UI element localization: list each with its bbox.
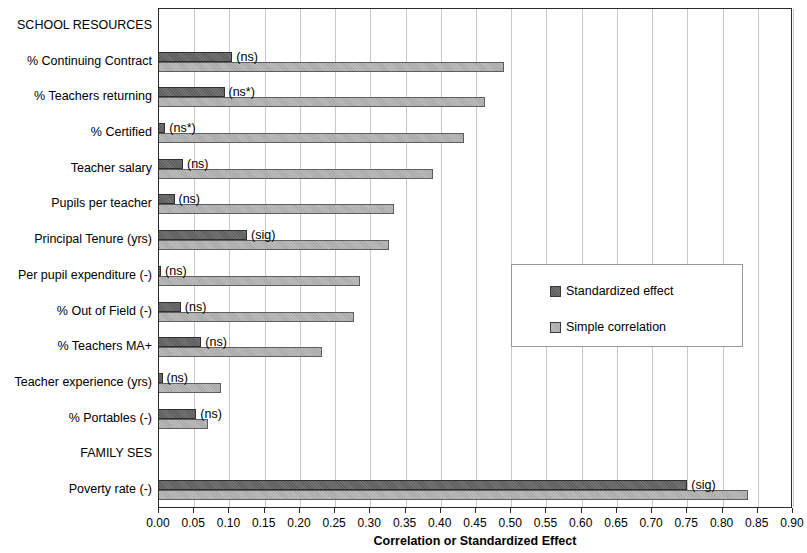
x-axis-tick [405,508,406,513]
bar-standardized-effect [159,52,232,62]
bar-simple-correlation [159,276,360,286]
gridline [300,9,301,507]
legend-label-standardized-effect: Standardized effect [566,284,673,298]
x-axis-tick [545,508,546,513]
bar-standardized-effect [159,480,687,490]
significance-note: (ns) [187,158,209,171]
bar-standardized-effect [159,302,181,312]
bar-simple-correlation [159,490,748,500]
gridline [723,9,724,507]
bar-simple-correlation [159,97,485,107]
bar-standardized-effect [159,123,165,133]
significance-note: (ns) [200,408,222,421]
gridline [652,9,653,507]
x-axis-title: Correlation or Standardized Effect [158,534,792,548]
bar-simple-correlation [159,62,504,72]
bar-standardized-effect [159,230,247,240]
x-axis-tick [264,508,265,513]
y-axis-category-label: Principal Tenure (yrs) [0,232,152,246]
gridline [476,9,477,507]
y-axis-category-label: % Certified [0,125,152,139]
significance-note: (ns) [185,301,207,314]
gridline [194,9,195,507]
y-axis-category-label: Pupils per teacher [0,196,152,210]
gridline [793,9,794,507]
plot-area: (ns)(ns*)(ns*)(ns)(ns)(sig)(ns)(ns)(ns)(… [158,8,792,508]
y-axis-category-label: % Portables (-) [0,411,152,425]
significance-note: (ns*) [229,86,255,99]
y-axis-category-label: % Continuing Contract [0,54,152,68]
bar-standardized-effect [159,266,161,276]
x-axis-tick [651,508,652,513]
significance-note: (ns*) [169,122,195,135]
y-axis-category-label: Teacher experience (yrs) [0,375,152,389]
gridline [335,9,336,507]
y-axis-category-label: Per pupil expenditure (-) [0,268,152,282]
gridline [229,9,230,507]
x-axis-tick [792,508,793,513]
gridline [265,9,266,507]
x-axis-tick [616,508,617,513]
x-axis-tick [158,508,159,513]
y-axis-category-label: Poverty rate (-) [0,482,152,496]
x-axis-tick [757,508,758,513]
bar-standardized-effect [159,87,225,97]
x-axis-tick [440,508,441,513]
x-axis-tick [299,508,300,513]
significance-note: (ns) [205,336,227,349]
significance-note: (sig) [691,479,715,492]
y-axis-category-label: % Out of Field (-) [0,304,152,318]
bar-standardized-effect [159,409,196,419]
legend-item-standardized-effect: Standardized effect [550,284,673,298]
legend-swatch-standardized-effect [550,286,561,297]
legend-label-simple-correlation: Simple correlation [566,320,666,334]
gridline [511,9,512,507]
legend-item-simple-correlation: Simple correlation [550,320,666,334]
bar-standardized-effect [159,194,175,204]
legend-swatch-simple-correlation [550,322,561,333]
x-axis-tick [510,508,511,513]
bar-standardized-effect [159,373,163,383]
significance-note: (sig) [251,229,275,242]
y-axis-category-label: Teacher salary [0,161,152,175]
significance-note: (ns) [179,193,201,206]
gridline [406,9,407,507]
gridline [370,9,371,507]
bar-standardized-effect [159,159,183,169]
y-axis-section-label: SCHOOL RESOURCES [0,18,152,32]
y-axis-category-label: % Teachers MA+ [0,339,152,353]
x-axis-tick [334,508,335,513]
significance-note: (ns) [165,265,187,278]
gridline [441,9,442,507]
y-axis-category-label: % Teachers returning [0,89,152,103]
x-axis-tick [369,508,370,513]
x-axis-tick [722,508,723,513]
gridline [687,9,688,507]
bar-simple-correlation [159,133,464,143]
y-axis-section-label: FAMILY SES [0,446,152,460]
gridline [582,9,583,507]
x-axis-tick [686,508,687,513]
x-axis-tick-label: 0.90 [770,516,807,530]
significance-note: (ns) [236,51,258,64]
legend: Standardized effect Simple correlation [511,264,743,347]
bar-simple-correlation [159,347,322,357]
bar-chart: SCHOOL RESOURCES% Continuing Contract% T… [0,0,807,553]
x-axis-tick [475,508,476,513]
gridline [546,9,547,507]
gridline [617,9,618,507]
x-axis-tick [228,508,229,513]
bar-standardized-effect [159,337,201,347]
gridline [758,9,759,507]
x-axis-tick [581,508,582,513]
x-axis-tick [193,508,194,513]
significance-note: (ns) [167,372,189,385]
